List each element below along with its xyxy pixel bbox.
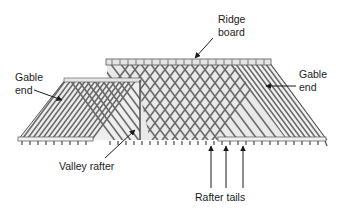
gable-end-left-label: Gable end bbox=[15, 71, 43, 96]
valley-rafter-label: Valley rafter bbox=[59, 160, 114, 173]
valley-rafter-label-text: Valley rafter bbox=[59, 160, 114, 173]
ridge-board bbox=[106, 59, 271, 65]
rafter-tails bbox=[22, 141, 327, 146]
ridge-board-label-line2: board bbox=[218, 26, 245, 39]
gable-end-right-label-line2: end bbox=[299, 81, 327, 94]
roof-framing-diagram bbox=[0, 0, 340, 212]
gable-end-right-label: Gable end bbox=[299, 68, 327, 93]
ridge-board-label: Ridge board bbox=[218, 13, 245, 38]
gable-end-left-label-line1: Gable bbox=[15, 71, 43, 84]
rafter-tails-label-text: Rafter tails bbox=[195, 191, 245, 204]
gable-end-left-label-line2: end bbox=[15, 84, 43, 97]
gable-end-right-label-line1: Gable bbox=[299, 68, 327, 81]
ridge-board-arrow bbox=[195, 38, 213, 58]
ridge-board-label-line1: Ridge bbox=[218, 13, 245, 26]
rafter-tails-label: Rafter tails bbox=[195, 191, 245, 204]
